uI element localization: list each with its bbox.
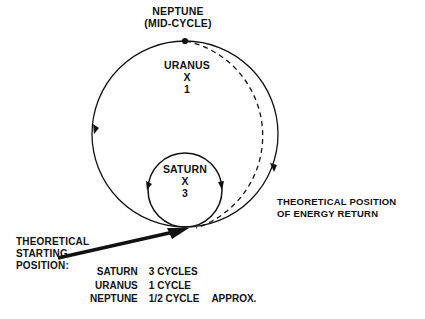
- cycles-table: SATURN 3 CYCLES URANUS 1 CYCLE NEPTUNE 1…: [90, 266, 256, 307]
- cycles-body-name: URANUS: [90, 280, 149, 294]
- neptune-label: NEPTUNE (MID-CYCLE): [144, 6, 212, 30]
- cycles-count: 1/2 CYCLE: [149, 293, 200, 307]
- cycles-count: 3 CYCLES: [149, 266, 200, 280]
- cycles-note: APPROX.: [199, 293, 256, 307]
- energy-return-label: THEORETICAL POSITION OF ENERGY RETURN: [277, 196, 396, 220]
- uranus-label: URANUS X 1: [164, 60, 210, 95]
- table-row: URANUS 1 CYCLE: [90, 280, 256, 294]
- saturn-label: SATURN X 3: [163, 164, 207, 199]
- cycles-body-name: NEPTUNE: [90, 293, 149, 307]
- inner-orbit-direction-arrow-right: [218, 181, 224, 190]
- cycles-table-body: SATURN 3 CYCLES URANUS 1 CYCLE NEPTUNE 1…: [90, 266, 256, 307]
- cycles-note: [199, 266, 256, 280]
- starting-position-pointer-arrowhead: [167, 228, 189, 239]
- table-row: NEPTUNE 1/2 CYCLE APPROX.: [90, 293, 256, 307]
- table-row: SATURN 3 CYCLES: [90, 266, 256, 280]
- outer-orbit-direction-arrow-left: [93, 124, 99, 134]
- neptune-position-dot: [182, 38, 188, 44]
- cycles-note: [199, 280, 256, 294]
- cycles-body-name: SATURN: [90, 266, 149, 280]
- cycles-count: 1 CYCLE: [149, 280, 200, 294]
- starting-position-label: THEORETICAL STARTING POSITION:: [16, 236, 89, 273]
